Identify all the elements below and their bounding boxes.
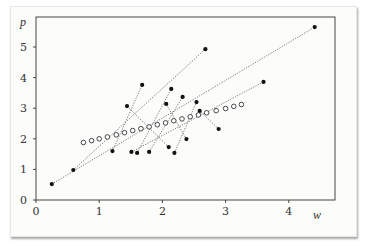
filled-point xyxy=(167,145,171,149)
x-tick-label: 3 xyxy=(222,205,229,218)
filled-point xyxy=(129,150,133,154)
hollow-point xyxy=(139,126,144,131)
x-tick-label: 4 xyxy=(285,205,292,218)
hollow-point xyxy=(163,121,168,126)
y-tick-label: 2 xyxy=(20,133,27,146)
hollow-point xyxy=(180,117,185,122)
filled-point xyxy=(181,95,185,99)
hollow-point xyxy=(188,114,193,119)
filled-point xyxy=(261,80,265,84)
hollow-point xyxy=(81,140,86,145)
hollow-point xyxy=(114,133,119,138)
hollow-point xyxy=(232,104,237,109)
hollow-point xyxy=(97,137,102,142)
hollow-point xyxy=(147,125,152,130)
filled-point xyxy=(169,87,173,91)
hollow-point xyxy=(196,113,201,118)
y-axis-label: p xyxy=(19,15,26,29)
filled-point xyxy=(313,25,317,29)
filled-point xyxy=(110,149,114,153)
filled-point xyxy=(71,168,75,172)
hollow-point xyxy=(239,102,244,107)
filled-point xyxy=(203,47,207,51)
x-tick-label: 0 xyxy=(33,205,40,218)
dotted-segment xyxy=(112,85,142,151)
x-tick-label: 1 xyxy=(96,205,103,218)
scatter-plot: 01234 012345 w p xyxy=(0,0,372,246)
filled-point xyxy=(50,182,54,186)
hollow-point xyxy=(204,110,209,115)
filled-point xyxy=(125,104,129,108)
hollow-point xyxy=(89,138,94,143)
filled-point xyxy=(140,83,144,87)
filled-point xyxy=(184,137,188,141)
hollow-point xyxy=(171,118,176,123)
y-tick-label: 4 xyxy=(20,72,27,85)
hollow-point xyxy=(122,130,127,135)
y-axis-ticks: 012345 xyxy=(20,41,36,207)
dotted-segments xyxy=(52,27,315,184)
y-tick-label: 0 xyxy=(20,194,27,207)
filled-point xyxy=(147,150,151,154)
dotted-segment xyxy=(73,49,205,170)
x-axis-label: w xyxy=(313,208,321,222)
hollow-point xyxy=(223,106,228,111)
plot-frame xyxy=(36,17,335,200)
filled-point xyxy=(194,100,198,104)
filled-point xyxy=(135,151,139,155)
x-axis-ticks: 01234 xyxy=(33,200,293,218)
filled-point xyxy=(164,102,168,106)
hollow-point xyxy=(214,108,219,113)
hollow-point xyxy=(130,128,135,133)
hollow-point xyxy=(155,122,160,127)
x-tick-label: 2 xyxy=(159,205,166,218)
dotted-segment xyxy=(52,27,315,184)
y-tick-label: 1 xyxy=(20,163,27,176)
y-tick-label: 3 xyxy=(20,102,27,115)
filled-point xyxy=(172,151,176,155)
filled-point xyxy=(217,127,221,131)
y-tick-label: 5 xyxy=(20,41,27,54)
hollow-point xyxy=(105,135,110,140)
